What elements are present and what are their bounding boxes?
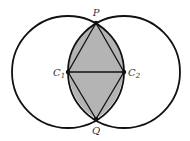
label-c2: C2 bbox=[128, 67, 141, 80]
point-q bbox=[94, 117, 98, 121]
label-c1-subscript: 1 bbox=[61, 72, 65, 80]
diagram-container: P Q C1 C2 bbox=[0, 0, 190, 141]
shaded-lens-region bbox=[69, 23, 123, 119]
point-p bbox=[94, 21, 98, 25]
label-p: P bbox=[92, 7, 100, 18]
label-q: Q bbox=[92, 125, 100, 136]
geometry-figure: P Q C1 C2 bbox=[0, 0, 190, 141]
label-c1: C1 bbox=[53, 67, 65, 80]
point-c1 bbox=[66, 70, 70, 74]
label-c2-subscript: 2 bbox=[135, 72, 141, 80]
point-c2 bbox=[122, 70, 126, 74]
